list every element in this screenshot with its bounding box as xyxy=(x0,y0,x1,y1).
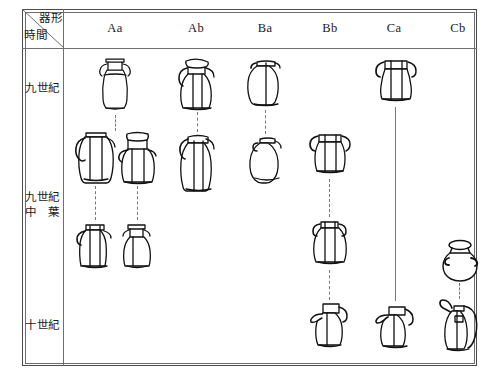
row-label-10th-century: 十世紀 xyxy=(22,318,63,333)
vessel-ab-row1 xyxy=(176,56,220,112)
typology-chart-figure: 器形 時間 Aa Ab Ba Bb Ca Cb 九世紀 九世紀 中 葉 十世紀 xyxy=(0,0,499,383)
corner-label-kikei: 器形 xyxy=(31,11,62,26)
corner-label-jikan: 時間 xyxy=(24,28,58,43)
connector-aa-right-row2-row3 xyxy=(137,186,138,220)
vessel-aa-row1 xyxy=(92,55,138,115)
row-label-line: 九世紀 xyxy=(22,190,63,205)
row-label-line: 中 葉 xyxy=(22,205,63,220)
row-label-column-divider xyxy=(63,9,64,366)
connector-ba-row1-row2 xyxy=(265,110,266,134)
header-row-divider xyxy=(22,48,477,49)
vessel-bb-row2-lower xyxy=(310,218,350,270)
connector-cb-row2-row3 xyxy=(459,283,460,299)
vessel-ca-row3 xyxy=(373,303,419,353)
connector-aa-left-row2-row3 xyxy=(95,186,96,220)
connector-ab-row1-row2 xyxy=(197,112,198,132)
vessel-aa-row3-right xyxy=(117,222,157,272)
row-label-9th-century: 九世紀 xyxy=(22,81,63,96)
vessel-bb-row3 xyxy=(308,300,352,352)
vessel-bb-row2-upper xyxy=(308,131,352,179)
row-label-line: 十世紀 xyxy=(22,318,63,333)
vessel-ab-row2 xyxy=(176,133,220,193)
connector-bb-row2-row3 xyxy=(329,270,330,300)
vessel-aa-row3-left xyxy=(74,222,116,272)
connector-ca-row1-row3 xyxy=(395,107,396,301)
column-header-bb: Bb xyxy=(300,21,360,36)
connector-aa-row1-row2 xyxy=(115,115,116,131)
row-label-line: 九世紀 xyxy=(22,81,63,96)
row-label-mid-9th-century: 九世紀 中 葉 xyxy=(22,190,63,220)
vessel-aa-row2-left xyxy=(74,130,118,186)
vessel-ca-row1 xyxy=(374,57,418,107)
column-header-aa: Aa xyxy=(85,21,145,36)
column-header-ba: Ba xyxy=(235,21,295,36)
connector-bb-upper-lower xyxy=(329,179,330,217)
vessel-cb-row2 xyxy=(438,238,484,284)
vessel-aa-row2-right xyxy=(117,130,159,186)
vessel-ba-row1 xyxy=(244,58,288,110)
column-header-cb: Cb xyxy=(428,21,488,36)
vessel-ba-row2 xyxy=(246,135,288,185)
vessel-cb-row3 xyxy=(436,298,484,354)
column-header-ca: Ca xyxy=(364,21,424,36)
column-header-ab: Ab xyxy=(166,21,226,36)
